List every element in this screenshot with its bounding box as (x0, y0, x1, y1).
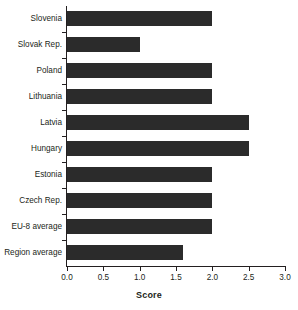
x-axis-tick (176, 267, 177, 271)
bar (67, 193, 212, 208)
y-axis-label-slovenia: Slovenia (0, 6, 62, 32)
bar-row (67, 32, 285, 58)
y-axis-label-czech-rep: Czech Rep. (0, 188, 62, 214)
x-axis-tick-label: 1.5 (170, 273, 181, 282)
x-axis-tick (140, 267, 141, 271)
bar-row (67, 188, 285, 214)
y-axis-label-region-average: Region average (0, 240, 62, 266)
bar-row (67, 110, 285, 136)
bar-row (67, 6, 285, 32)
bar-row (67, 58, 285, 84)
y-axis-label-slovak-rep: Slovak Rep. (0, 32, 62, 58)
y-axis-label-hungary: Hungary (0, 136, 62, 162)
x-axis-tick-label: 0.5 (98, 273, 109, 282)
bar (67, 245, 183, 260)
bar (67, 37, 140, 52)
x-axis-tick-label: 3.0 (279, 273, 290, 282)
bar (67, 219, 212, 234)
bar (67, 63, 212, 78)
bar-chart: SloveniaSlovak Rep.PolandLithuaniaLatvia… (0, 0, 298, 310)
bar (67, 89, 212, 104)
bar-row (67, 84, 285, 110)
x-axis-tick-label: 0.0 (61, 273, 72, 282)
bar-row (67, 214, 285, 240)
y-axis-label-lithuania: Lithuania (0, 84, 62, 110)
bar-row (67, 240, 285, 266)
bar (67, 11, 212, 26)
y-axis-label-latvia: Latvia (0, 110, 62, 136)
bar-row (67, 162, 285, 188)
x-axis-title: Score (0, 290, 298, 300)
x-axis-tick-label: 2.5 (243, 273, 254, 282)
y-axis-label-eu-8-average: EU-8 average (0, 214, 62, 240)
x-axis-tick (67, 267, 68, 271)
x-axis-tick (249, 267, 250, 271)
x-axis-tick-label: 1.0 (134, 273, 145, 282)
x-axis-tick (285, 267, 286, 271)
x-axis-tick-label: 2.0 (207, 273, 218, 282)
y-axis-label-poland: Poland (0, 58, 62, 84)
x-axis-tick (103, 267, 104, 271)
bar (67, 115, 249, 130)
y-axis-label-estonia: Estonia (0, 162, 62, 188)
bar-row (67, 136, 285, 162)
x-axis-tick (212, 267, 213, 271)
plot-area (67, 6, 285, 266)
bar (67, 141, 249, 156)
bar (67, 167, 212, 182)
